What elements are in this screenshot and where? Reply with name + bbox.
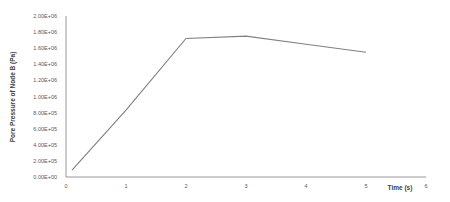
x-tick-label: 6 — [424, 183, 427, 189]
y-tick-label: 1.80E+06 — [33, 29, 57, 35]
x-tick-label: 4 — [304, 183, 307, 189]
data-series-line — [72, 36, 366, 170]
y-tick-label: 2.00E+06 — [33, 13, 57, 19]
y-tick-label: 1.60E+06 — [33, 45, 57, 51]
y-tick-label: 1.20E+06 — [33, 77, 57, 83]
x-tick-label: 0 — [64, 183, 67, 189]
y-tick-label: 1.40E+06 — [33, 61, 57, 67]
y-axis-tick-labels: 0.00E+002.00E+054.00E+056.00E+058.00E+05… — [33, 13, 57, 180]
y-tick-label: 0.00E+00 — [33, 174, 57, 180]
y-tick-label: 1.00E+06 — [33, 94, 57, 100]
x-tick-label: 3 — [244, 183, 247, 189]
y-tick-label: 6.00E+05 — [33, 126, 57, 132]
x-axis-tick-labels: 0123456 — [64, 183, 427, 189]
y-tick-label: 2.00E+05 — [33, 158, 57, 164]
y-axis-title: Pore Pressure of Node B (Pa) — [9, 52, 17, 143]
x-axis-title: Time (s) — [388, 184, 413, 192]
x-tick-label: 1 — [124, 183, 127, 189]
y-tick-label: 8.00E+05 — [33, 110, 57, 116]
x-tick-label: 2 — [184, 183, 187, 189]
line-chart: 0.00E+002.00E+054.00E+056.00E+058.00E+05… — [0, 0, 450, 202]
x-tick-label: 5 — [364, 183, 367, 189]
y-tick-label: 4.00E+05 — [33, 142, 57, 148]
